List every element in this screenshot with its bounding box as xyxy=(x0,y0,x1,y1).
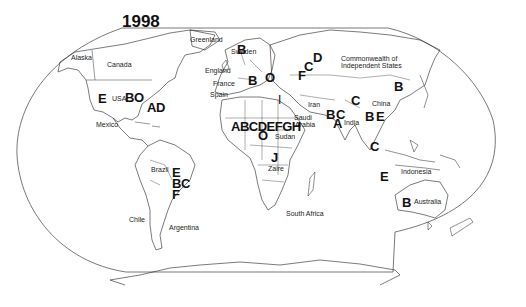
code-seasia-c: C xyxy=(370,140,379,153)
label-spain: Spain xyxy=(210,91,228,99)
code-india-a: A xyxy=(333,117,342,130)
code-westafrica-o: O xyxy=(258,129,268,142)
code-bangladesh-b: B xyxy=(365,110,374,123)
label-brazil: Brazil xyxy=(151,166,169,174)
code-myanmar-e: E xyxy=(376,110,384,123)
label-india: India xyxy=(344,119,359,127)
code-indonesia-e: E xyxy=(380,170,388,183)
label-cis-line2: Independent States xyxy=(341,62,402,70)
label-sudan: Sudan xyxy=(275,133,295,141)
label-zaire: Zaire xyxy=(268,165,284,173)
code-brazil-stack: E BC F xyxy=(172,167,190,200)
label-china: China xyxy=(372,100,390,108)
label-south-africa: South Africa xyxy=(286,210,324,218)
label-chile: Chile xyxy=(129,216,145,224)
code-usa-bo: BO xyxy=(125,91,144,104)
label-iran: Iran xyxy=(308,101,320,109)
label-indonesia: Indonesia xyxy=(401,168,431,176)
code-cis-d: D xyxy=(313,51,322,64)
projection-frame xyxy=(17,28,495,272)
label-canada: Canada xyxy=(107,61,132,69)
antarctica xyxy=(110,260,400,285)
map-title: 1998 xyxy=(122,12,160,32)
world-map: 1998 Greenland Alaska Canada Sweden Engl… xyxy=(0,0,526,307)
map-outline xyxy=(0,0,526,307)
label-alaska: Alaska xyxy=(71,54,92,62)
code-zaire-j: J xyxy=(271,151,278,164)
code-sweden: B xyxy=(237,43,246,56)
code-usa-e: E xyxy=(98,92,106,105)
code-china-c: C xyxy=(351,94,360,107)
code-cis-f: F xyxy=(298,69,305,82)
label-mexico: Mexico xyxy=(96,121,118,129)
africa xyxy=(220,97,305,210)
label-australia: Australia xyxy=(414,198,441,206)
code-europe-o: O xyxy=(265,71,275,84)
label-greenland: Greenland xyxy=(190,36,223,44)
code-egypt-i: I xyxy=(278,94,281,107)
label-france: France xyxy=(213,80,235,88)
code-australia-b: B xyxy=(402,196,411,209)
code-eastasia-b: B xyxy=(394,80,403,93)
label-england: England xyxy=(205,67,231,75)
label-argentina: Argentina xyxy=(169,224,199,232)
code-usa-ad: AD xyxy=(147,101,165,114)
code-europe-b: B xyxy=(248,74,257,87)
